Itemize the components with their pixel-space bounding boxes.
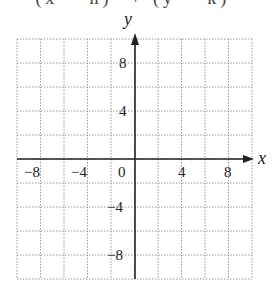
grid-svg (0, 0, 275, 291)
x-tick-label: −8 (24, 165, 40, 180)
x-axis-label: x (258, 149, 266, 167)
x-tick-label: −4 (71, 165, 87, 180)
y-tick-label: 4 (119, 104, 127, 119)
x-tick-label: 4 (178, 165, 186, 180)
coordinate-plane: (x − h)² + (y − k)² x y −8 −4 0 4 8 8 4 … (0, 0, 275, 291)
axes (17, 44, 246, 279)
x-tick-label: 8 (224, 165, 232, 180)
x-tick-label: 0 (118, 165, 126, 180)
y-tick-label: −8 (107, 248, 123, 263)
y-tick-label: −4 (107, 200, 123, 215)
y-tick-label: 8 (119, 56, 127, 71)
y-axis-label: y (124, 10, 132, 28)
